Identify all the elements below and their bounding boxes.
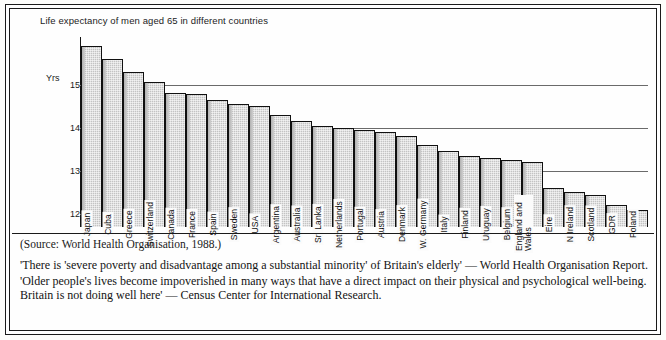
bar-group: England and Wales bbox=[522, 37, 543, 227]
bar-group: Argentina bbox=[270, 37, 291, 227]
bar-group: N Ireland bbox=[564, 37, 585, 227]
chart-title: Life expectancy of men aged 65 in differ… bbox=[40, 15, 268, 26]
bar-group: Eire bbox=[543, 37, 564, 227]
bar-category-label: Uruguay bbox=[480, 206, 491, 243]
bar bbox=[123, 72, 144, 227]
bar-edge-shading bbox=[124, 73, 127, 227]
bar-category-label: Portugal bbox=[354, 206, 365, 242]
bar-category-label: Belgium bbox=[501, 206, 512, 241]
bar-group: Uruguay bbox=[480, 37, 501, 227]
bar-group: Portugal bbox=[354, 37, 375, 227]
bar-group: Poland bbox=[627, 37, 648, 227]
bar-category-label: Poland bbox=[627, 208, 638, 239]
bar-group: Netherlands bbox=[333, 37, 354, 227]
bar-group: Sri Lanka bbox=[312, 37, 333, 227]
y-tick-label: 13 bbox=[54, 166, 80, 176]
y-axis: Yrs 15141312 bbox=[44, 37, 80, 227]
bar-category-label: Canada bbox=[165, 207, 176, 241]
quote-2: 'Older people's lives become impoverishe… bbox=[20, 274, 660, 303]
bar-group: Italy bbox=[438, 37, 459, 227]
bar-category-label: Austria bbox=[375, 208, 386, 239]
bar-group: Denmark bbox=[396, 37, 417, 227]
bar-group: Sweden bbox=[228, 37, 249, 227]
bar-group: Canada bbox=[165, 37, 186, 227]
bar-group: Greece bbox=[123, 37, 144, 227]
bar-group: GDR bbox=[606, 37, 627, 227]
bar-category-label: Greece bbox=[123, 208, 134, 240]
figure-page: Life expectancy of men aged 65 in differ… bbox=[0, 0, 666, 340]
bar-group: Australia bbox=[291, 37, 312, 227]
outer-border: Life expectancy of men aged 65 in differ… bbox=[5, 4, 661, 335]
plot-area: Yrs 15141312 JapanCubaGreeceSwitzerlandC… bbox=[44, 37, 648, 227]
bar-category-label: Eire bbox=[543, 214, 554, 234]
y-tick-label: 14 bbox=[54, 123, 80, 133]
bar bbox=[102, 59, 123, 227]
bar bbox=[207, 100, 228, 227]
bar-edge-shading bbox=[250, 107, 253, 227]
bar-edge-shading bbox=[82, 47, 85, 227]
bar-group: Finland bbox=[459, 37, 480, 227]
bar-group: Austria bbox=[375, 37, 396, 227]
y-tick-label: 15 bbox=[54, 80, 80, 90]
bar-group: USA bbox=[249, 37, 270, 227]
bar-group: Scotland bbox=[585, 37, 606, 227]
quote-1: 'There is 'severe poverty and disadvanta… bbox=[20, 258, 660, 273]
bar-category-label: Sweden bbox=[228, 206, 239, 241]
bar-edge-shading bbox=[103, 60, 106, 227]
bar bbox=[81, 46, 102, 227]
bar-category-label: USA bbox=[249, 213, 260, 235]
bar-category-label: France bbox=[186, 208, 197, 239]
section-divider bbox=[12, 233, 654, 234]
bar bbox=[249, 106, 270, 227]
caption-block: (Source: World Health Organisation, 1988… bbox=[20, 238, 660, 303]
bar bbox=[186, 94, 207, 227]
bar-category-label: Finland bbox=[459, 208, 470, 241]
bar-category-label: Italy bbox=[438, 214, 449, 234]
bar-series: JapanCubaGreeceSwitzerlandCanadaFranceSp… bbox=[81, 37, 648, 227]
axis-area: JapanCubaGreeceSwitzerlandCanadaFranceSp… bbox=[80, 37, 648, 227]
bar-group: Cuba bbox=[102, 37, 123, 227]
bar-group: Japan bbox=[81, 37, 102, 227]
chart-container: Life expectancy of men aged 65 in differ… bbox=[18, 15, 650, 233]
bar-edge-shading bbox=[187, 95, 190, 227]
source-note: (Source: World Health Organisation, 1988… bbox=[20, 238, 660, 250]
bar-group: Switzerland bbox=[144, 37, 165, 227]
bar-group: W. Germany bbox=[417, 37, 438, 227]
bar-group: Spain bbox=[207, 37, 228, 227]
bar-edge-shading bbox=[208, 101, 211, 227]
bar-group: France bbox=[186, 37, 207, 227]
y-tick-label: 12 bbox=[54, 209, 80, 219]
